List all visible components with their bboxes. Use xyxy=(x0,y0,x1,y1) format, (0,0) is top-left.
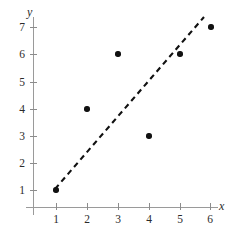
y-tick-mark xyxy=(30,54,37,55)
y-tick-label: 2 xyxy=(11,158,25,170)
data-point xyxy=(208,24,213,29)
y-tick-mark xyxy=(30,163,37,164)
y-axis-label: y xyxy=(27,6,32,18)
y-tick-mark xyxy=(30,82,37,83)
y-axis-line xyxy=(33,17,34,215)
x-tick-label: 1 xyxy=(49,214,63,226)
y-tick-label: 6 xyxy=(11,49,25,61)
y-tick-mark xyxy=(30,109,37,110)
x-tick-mark xyxy=(210,203,211,210)
x-axis-line xyxy=(26,207,218,208)
scatter-plot: y x 1 2 3 4 5 6 7 1 2 3 4 5 6 xyxy=(0,0,230,238)
y-tick-label: 5 xyxy=(11,77,25,89)
x-tick-label: 6 xyxy=(203,214,217,226)
y-tick-mark xyxy=(30,136,37,137)
x-tick-mark xyxy=(56,203,57,210)
trend-line xyxy=(0,0,230,238)
data-point xyxy=(115,51,120,56)
x-tick-label: 3 xyxy=(111,214,125,226)
y-tick-mark xyxy=(30,190,37,191)
data-point xyxy=(84,106,89,111)
x-axis-label: x xyxy=(219,200,224,212)
x-tick-label: 5 xyxy=(173,214,187,226)
y-tick-label: 7 xyxy=(11,22,25,34)
x-tick-mark xyxy=(118,203,119,210)
x-tick-label: 4 xyxy=(142,214,156,226)
y-tick-mark xyxy=(30,27,37,28)
y-tick-label: 4 xyxy=(11,104,25,116)
x-tick-mark xyxy=(149,203,150,210)
data-point xyxy=(177,51,182,56)
y-tick-label: 1 xyxy=(11,185,25,197)
data-point xyxy=(146,133,151,138)
x-tick-label: 2 xyxy=(80,214,94,226)
x-tick-mark xyxy=(180,203,181,210)
y-tick-label: 3 xyxy=(11,131,25,143)
x-tick-mark xyxy=(87,203,88,210)
data-point xyxy=(53,187,58,192)
